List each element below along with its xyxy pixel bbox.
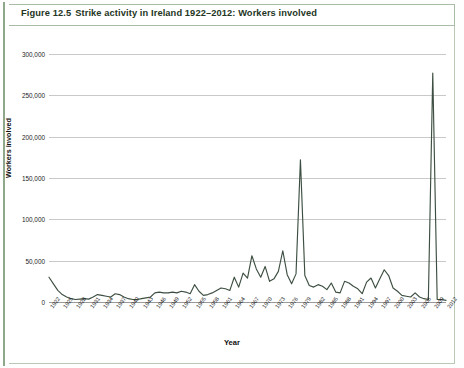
x-axis-title: Year xyxy=(0,338,464,347)
series-line-path xyxy=(49,73,446,300)
ytick-label-300000: 300,000 xyxy=(22,51,45,58)
ytick-label-250000: 250,000 xyxy=(22,92,45,99)
ytick-label-0: 0 xyxy=(41,299,45,306)
series-workers-involved xyxy=(49,54,446,302)
ytick-label-100000: 100,000 xyxy=(22,216,45,223)
figure-root: Figure 12.5Strike activity in Ireland 19… xyxy=(0,0,464,368)
y-axis-title: Workers involved xyxy=(4,118,13,178)
ytick-label-150000: 150,000 xyxy=(22,175,45,182)
ytick-label-200000: 200,000 xyxy=(22,133,45,140)
xtick-label-2012: 2012 xyxy=(446,296,458,310)
ytick-label-50000: 50,000 xyxy=(25,257,45,264)
chart-plot: Workers involved Year 050,000100,000150,… xyxy=(0,0,464,368)
